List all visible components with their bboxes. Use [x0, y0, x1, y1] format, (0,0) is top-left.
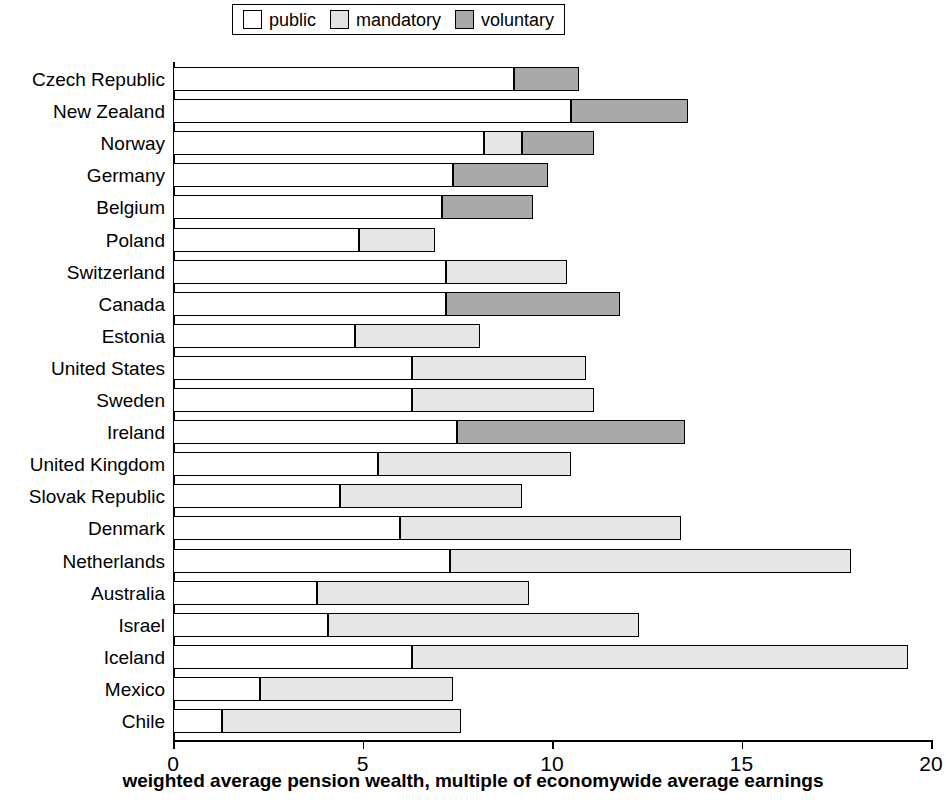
x-tick [173, 740, 175, 749]
bar-segment-mandatory [328, 613, 639, 637]
bar-segment-voluntary [514, 67, 578, 91]
category-label: Israel [0, 616, 165, 635]
bar-segment-mandatory [412, 356, 586, 380]
category-label: Netherlands [0, 552, 165, 571]
category-label: United Kingdom [0, 455, 165, 474]
category-label: Poland [0, 231, 165, 250]
bar-segment-mandatory [317, 581, 529, 605]
stacked-bar-chart: public mandatory voluntary Czech Republi… [0, 0, 946, 804]
bar-segment-public [173, 195, 442, 219]
category-label: Iceland [0, 648, 165, 667]
bar-segment-public [173, 549, 450, 573]
x-axis-title: weighted average pension wealth, multipl… [0, 770, 946, 792]
bar-segment-public [173, 516, 400, 540]
legend-swatch-voluntary-icon [455, 10, 474, 29]
bar-segment-mandatory [340, 484, 522, 508]
category-label: Denmark [0, 519, 165, 538]
bar-segment-public [173, 99, 571, 123]
category-label: Estonia [0, 327, 165, 346]
bar-segment-public [173, 388, 412, 412]
legend-item-public: public [243, 10, 316, 29]
category-label: Mexico [0, 680, 165, 699]
bar-segment-mandatory [400, 516, 680, 540]
plot-area: 05101520 [173, 62, 931, 740]
bar-segment-voluntary [442, 195, 533, 219]
legend-label-voluntary: voluntary [481, 11, 554, 29]
bar-segment-public [173, 709, 222, 733]
bar-segment-public [173, 260, 446, 284]
x-tick [552, 740, 554, 749]
category-label: Switzerland [0, 263, 165, 282]
bar-segment-public [173, 484, 340, 508]
bar-segment-public [173, 163, 453, 187]
category-label: United States [0, 359, 165, 378]
category-label: Sweden [0, 391, 165, 410]
legend-label-mandatory: mandatory [356, 11, 441, 29]
category-label: Ireland [0, 423, 165, 442]
bar-segment-mandatory [378, 452, 571, 476]
bar-segment-public [173, 677, 260, 701]
category-label: Slovak Republic [0, 487, 165, 506]
bar-segment-voluntary [453, 163, 548, 187]
bar-segment-public [173, 645, 412, 669]
category-label: Norway [0, 134, 165, 153]
bar-segment-voluntary [571, 99, 688, 123]
legend-item-mandatory: mandatory [330, 10, 441, 29]
chart-legend: public mandatory voluntary [232, 4, 565, 35]
bar-segment-mandatory [222, 709, 461, 733]
category-label: New Zealand [0, 102, 165, 121]
bar-segment-public [173, 420, 457, 444]
x-tick [363, 740, 365, 749]
bar-segment-mandatory [359, 228, 435, 252]
bar-segment-public [173, 292, 446, 316]
category-label: Canada [0, 295, 165, 314]
bar-segment-public [173, 581, 317, 605]
bar-segment-public [173, 324, 355, 348]
legend-swatch-public-icon [243, 10, 262, 29]
bar-segment-mandatory [260, 677, 453, 701]
bar-segment-mandatory [446, 260, 567, 284]
x-tick [931, 740, 933, 749]
bar-segment-mandatory [412, 388, 594, 412]
bar-segment-mandatory [484, 131, 522, 155]
bar-segment-public [173, 228, 359, 252]
category-label: Australia [0, 584, 165, 603]
bar-segment-public [173, 452, 378, 476]
bar-segment-voluntary [457, 420, 684, 444]
category-label: Czech Republic [0, 70, 165, 89]
bar-segment-voluntary [522, 131, 594, 155]
bar-segment-mandatory [355, 324, 480, 348]
bar-segment-public [173, 613, 328, 637]
legend-item-voluntary: voluntary [455, 10, 554, 29]
bar-segment-mandatory [412, 645, 908, 669]
category-label: Chile [0, 712, 165, 731]
x-tick [742, 740, 744, 749]
bar-segment-voluntary [446, 292, 620, 316]
bar-segment-public [173, 67, 514, 91]
category-label: Germany [0, 166, 165, 185]
legend-swatch-mandatory-icon [330, 10, 349, 29]
category-label: Belgium [0, 198, 165, 217]
bar-segment-mandatory [450, 549, 852, 573]
bar-segment-public [173, 356, 412, 380]
bar-segment-public [173, 131, 484, 155]
legend-label-public: public [269, 11, 316, 29]
